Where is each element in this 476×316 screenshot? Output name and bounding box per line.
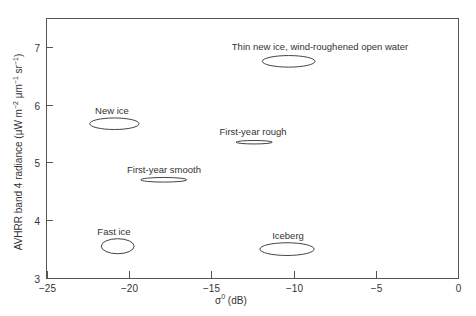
region-ellipse [101, 239, 134, 254]
region-ellipse [236, 140, 272, 143]
region-ellipse [90, 118, 139, 130]
region-label: New ice [95, 105, 129, 116]
x-axis-title: σ0 (dB) [215, 293, 247, 306]
chart-container: −25−20−15−10−50 34567 Thin new ice, wind… [0, 0, 476, 316]
x-tick-label: 0 [456, 283, 462, 294]
x-tick-label: −15 [203, 283, 220, 294]
region-ellipse [141, 177, 187, 182]
plot-frame [47, 19, 459, 279]
region-ellipse [262, 56, 315, 68]
y-tick-label: 3 [34, 274, 40, 285]
region-label: Thin new ice, wind-roughened open water [232, 41, 408, 52]
x-tick-label: −20 [121, 283, 138, 294]
x-tick-label: −25 [39, 283, 56, 294]
annotation-labels: Thin new ice, wind-roughened open waterN… [95, 41, 408, 241]
y-tick-label: 4 [34, 216, 40, 227]
x-axis: −25−20−15−10−50 [39, 271, 462, 294]
y-axis-title: AVHRR band 4 radiance (μW m−2 μm−1 sr−1) [12, 54, 24, 250]
x-tick-label: −5 [371, 283, 383, 294]
region-label: Iceberg [272, 230, 304, 241]
y-tick-label: 7 [34, 43, 40, 54]
y-tick-label: 5 [34, 158, 40, 169]
y-axis: 34567 [34, 43, 53, 285]
y-tick-label: 6 [34, 101, 40, 112]
region-label: Fast ice [97, 226, 130, 237]
region-label: First-year rough [219, 126, 286, 137]
region-ellipse [260, 243, 314, 256]
x-tick-label: −10 [286, 283, 303, 294]
region-label: First-year smooth [127, 164, 201, 175]
scatter-plot: −25−20−15−10−50 34567 Thin new ice, wind… [0, 0, 476, 316]
